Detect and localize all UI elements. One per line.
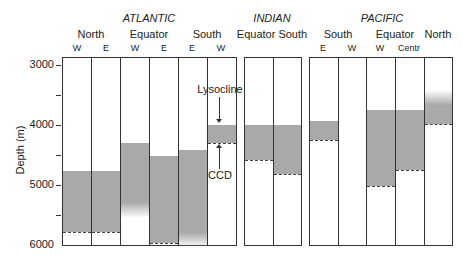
ccd-line — [425, 124, 452, 125]
calcite-dissolution-band — [150, 156, 178, 243]
region-pacific-equator: Equator — [376, 28, 415, 40]
y-tick-label: 5000 — [14, 178, 54, 190]
column-indian-equator — [244, 57, 274, 246]
calcite-dissolution-band — [310, 121, 338, 140]
ccd-line — [63, 232, 91, 233]
column-pacific-south-e — [309, 57, 339, 246]
column-atlantic-north-w — [62, 57, 92, 246]
lysocline-ccd-chart: ATLANTIC INDIAN PACIFIC North Equator So… — [0, 0, 465, 266]
col-label: E — [103, 43, 109, 53]
col-label: W — [73, 43, 82, 53]
ocean-label-atlantic: ATLANTIC — [123, 12, 175, 24]
calcite-dissolution-band — [425, 90, 452, 124]
calcite-dissolution-band — [179, 150, 207, 248]
y-tick-label: 3000 — [14, 58, 54, 70]
calcite-dissolution-band — [208, 125, 236, 143]
col-label: W — [348, 43, 357, 53]
ccd-line — [92, 232, 120, 233]
y-tick — [56, 215, 61, 216]
col-label: W — [376, 43, 385, 53]
col-label: E — [320, 43, 326, 53]
y-tick — [56, 185, 61, 186]
ccd-line — [310, 140, 338, 141]
region-pacific-south: South — [324, 28, 353, 40]
lysocline-arrow — [219, 97, 220, 120]
annotation-lysocline: Lysocline — [197, 83, 242, 95]
region-indian-equator-south: Equator South — [237, 28, 307, 40]
ccd-arrow — [219, 147, 220, 169]
y-tick-label: 4000 — [14, 118, 54, 130]
ccd-line — [208, 143, 236, 144]
region-atlantic-equator: Equator — [130, 28, 169, 40]
region-atlantic-north: North — [78, 28, 105, 40]
ccd-line — [396, 170, 424, 171]
col-label: E — [189, 43, 195, 53]
region-atlantic-south: South — [193, 28, 222, 40]
ccd-line — [245, 160, 273, 161]
col-label: E — [161, 43, 167, 53]
col-label: W — [217, 43, 226, 53]
column-pacific-equator-centr — [395, 57, 425, 246]
y-tick-label: 6000 — [14, 238, 54, 250]
calcite-dissolution-band — [367, 110, 395, 186]
ccd-line — [274, 174, 301, 175]
lysocline-arrowhead-icon — [216, 119, 222, 123]
ocean-label-indian: INDIAN — [253, 12, 290, 24]
y-tick — [56, 125, 61, 126]
y-tick — [56, 95, 61, 96]
col-label: W — [131, 43, 140, 53]
column-atlantic-north-e — [91, 57, 121, 246]
column-pacific-north — [424, 57, 453, 246]
column-atlantic-equator-w — [120, 57, 150, 246]
y-tick — [56, 65, 61, 66]
column-atlantic-equator-e — [149, 57, 179, 246]
y-axis-label: Depth (m) — [14, 126, 26, 175]
calcite-dissolution-band — [245, 125, 273, 160]
column-pacific-equator-w — [366, 57, 396, 246]
calcite-dissolution-band — [274, 125, 301, 174]
ocean-label-pacific: PACIFIC — [361, 12, 404, 24]
ccd-line — [150, 243, 178, 244]
region-pacific-north: North — [425, 28, 452, 40]
ccd-line — [367, 186, 395, 187]
y-tick — [56, 155, 61, 156]
annotation-ccd: CCD — [208, 169, 232, 181]
column-indian-south — [273, 57, 302, 246]
col-label: Centr — [398, 43, 420, 53]
calcite-dissolution-band — [121, 143, 149, 218]
column-pacific-south-w — [338, 57, 367, 246]
calcite-dissolution-band — [63, 171, 91, 232]
calcite-dissolution-band — [92, 171, 120, 232]
calcite-dissolution-band — [396, 110, 424, 170]
